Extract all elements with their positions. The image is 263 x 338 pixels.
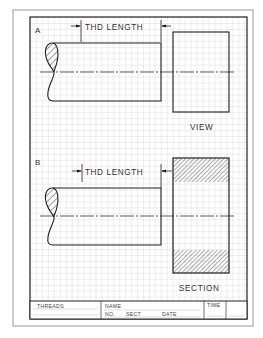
threads-field: THREADS [37, 303, 64, 309]
dimension-text-a: THD LENGTH [85, 23, 143, 32]
title-block: THREADS NAME NO. SECT DATE TIME [30, 301, 247, 319]
date-field: DATE [162, 311, 177, 317]
dimension-text-b: THD LENGTH [85, 168, 143, 177]
view-label: VIEW [190, 123, 213, 132]
section-label: SECTION [179, 284, 220, 293]
section-field: SECT [126, 311, 142, 317]
problem-label-b: B [35, 158, 41, 167]
section-hatch-top [173, 158, 229, 182]
number-field: NO. [105, 311, 115, 317]
problem-label-a: A [35, 26, 41, 35]
name-field: NAME [105, 303, 121, 309]
drafting-worksheet: A THD LENGTH VIEW B [0, 0, 263, 338]
section-hatch-bottom [173, 250, 229, 273]
time-field: TIME [207, 302, 221, 308]
